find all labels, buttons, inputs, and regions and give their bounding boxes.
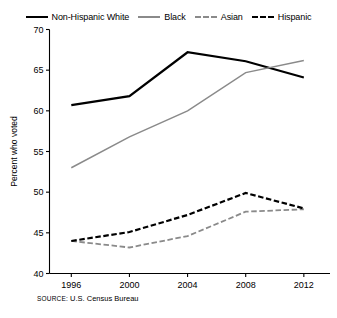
- y-axis: 40455055606570: [33, 25, 49, 279]
- y-tick-label: 40: [33, 269, 43, 279]
- y-tick-label: 60: [33, 106, 43, 116]
- x-axis: 19962000200420082012: [50, 274, 331, 290]
- plot-area: 40455055606570 19962000200420082012 Perc…: [0, 0, 337, 318]
- x-tick-label: 2008: [236, 280, 256, 290]
- x-tick-label: 2012: [294, 280, 314, 290]
- source-note: SOURCE: U.S. Census Bureau: [37, 294, 138, 303]
- x-tick-label: 2000: [119, 280, 139, 290]
- source-text: U.S. Census Bureau: [68, 294, 138, 303]
- source-prefix: SOURCE:: [37, 295, 68, 302]
- series-line-non-hispanic-white: [71, 52, 304, 105]
- y-tick-label: 65: [33, 65, 43, 75]
- y-tick-label: 45: [33, 228, 43, 238]
- data-series-group: [71, 52, 304, 247]
- y-axis-title: Percent who voted: [9, 116, 19, 187]
- y-tick-label: 70: [33, 25, 43, 35]
- x-tick-label: 1996: [61, 280, 81, 290]
- x-tick-label: 2004: [178, 280, 198, 290]
- series-line-asian: [71, 209, 304, 247]
- series-line-black: [71, 60, 304, 167]
- y-tick-label: 50: [33, 187, 43, 197]
- axis-titles: Percent who voted: [9, 116, 19, 187]
- y-tick-label: 55: [33, 147, 43, 157]
- voter-turnout-line-chart: Non-Hispanic White Black Asian Hispanic …: [0, 0, 337, 318]
- series-line-hispanic: [71, 193, 304, 241]
